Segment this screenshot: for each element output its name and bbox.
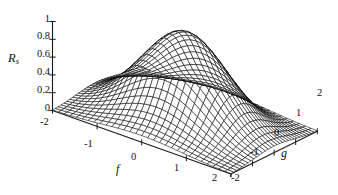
z-axis-title-subscript: s xyxy=(16,56,19,66)
z-tick-label-1: 1 xyxy=(28,14,50,25)
z-axis-title-base: R xyxy=(8,51,16,65)
z-tick-label-0p6: 0.6 xyxy=(20,49,50,60)
f-tick-label-1: 1 xyxy=(174,163,179,174)
g-tick-label-1: 1 xyxy=(296,108,301,119)
z-axis-title: Rs xyxy=(8,52,19,66)
g-tick-label--1: -1 xyxy=(250,147,259,158)
f-tick-label--1: -1 xyxy=(84,139,93,150)
f-tick-label-0: 0 xyxy=(131,152,136,163)
z-tick-label-0p8: 0.8 xyxy=(20,31,50,42)
z-tick-label-0p4: 0.4 xyxy=(20,67,50,78)
plot-canvas xyxy=(0,0,338,195)
z-tick-label-0: 0 xyxy=(28,103,50,114)
g-tick-label-0: 0 xyxy=(274,128,279,139)
g-axis-title: g xyxy=(281,147,287,159)
surface-plot-figure: 1 0.8 0.6 0.4 0.2 0 Rs -2 -1 0 1 2 f -2 … xyxy=(0,0,338,195)
f-tick-label--2: -2 xyxy=(40,117,49,128)
g-tick-label--2: -2 xyxy=(231,173,240,184)
z-tick-label-0p2: 0.2 xyxy=(20,85,50,96)
f-tick-label-2: 2 xyxy=(212,173,217,184)
g-tick-label-2: 2 xyxy=(317,88,322,99)
f-axis-title: f xyxy=(116,163,119,175)
